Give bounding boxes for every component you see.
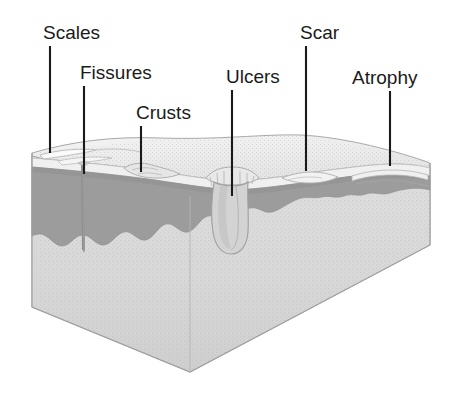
- label-atrophy: Atrophy: [352, 67, 418, 88]
- skin-block: [0, 130, 451, 380]
- label-scales: Scales: [43, 22, 100, 43]
- skin-lesion-diagram: Scales Fissures Crusts Ulcers Scar Atrop…: [0, 0, 451, 396]
- labels: Scales Fissures Crusts Ulcers Scar Atrop…: [43, 22, 418, 123]
- label-crusts: Crusts: [136, 102, 191, 123]
- label-fissures: Fissures: [80, 62, 152, 83]
- label-ulcers: Ulcers: [226, 66, 280, 87]
- label-scar: Scar: [300, 22, 340, 43]
